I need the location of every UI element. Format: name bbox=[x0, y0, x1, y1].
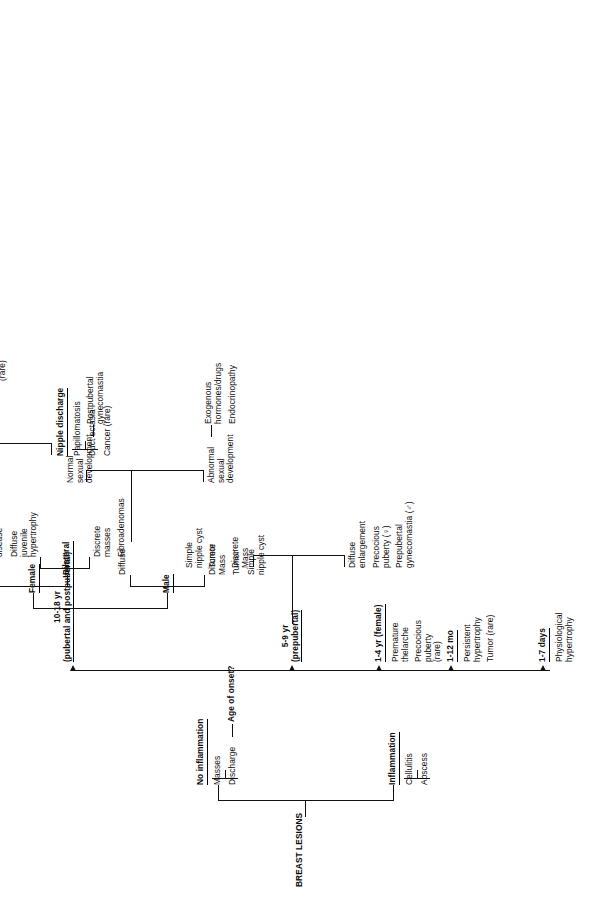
node-inflammation: Inflammation bbox=[388, 732, 400, 785]
leaf-duct-ectasia: Duct ectasia bbox=[88, 409, 98, 456]
node-1-7-days: 1-7 days bbox=[538, 628, 550, 662]
node-male-discrete-mass: Discrete Mass bbox=[208, 544, 227, 575]
arrow-1-12-mo bbox=[448, 665, 454, 671]
leaf-physiological-hypertrophy: Physiological hypertrophy bbox=[555, 612, 574, 662]
leaf-male-simple-nipple-cyst: Simple nipple cyst bbox=[247, 535, 266, 575]
node-1-12-mo: 1-12 mo bbox=[446, 630, 458, 662]
leaf-exogenous-hormones: Exogenous hormones/drugs bbox=[204, 363, 223, 424]
node-bilateral: Bilateral bbox=[62, 541, 74, 575]
leaf-endocrinopathy: Endocrinopathy bbox=[228, 365, 238, 424]
node-male: Male bbox=[162, 574, 174, 593]
arrow-5-9-yr bbox=[289, 665, 295, 671]
edge-5-9-to-diffuse bbox=[344, 555, 345, 567]
edge-bilateral-to-diffuse bbox=[40, 557, 41, 569]
edge-5-9-stem bbox=[292, 555, 293, 624]
leaf-prepubertal-simple-nipple-cyst: Simple nipple cyst bbox=[185, 528, 204, 568]
leaf-papillomatosis: Papillomatosis bbox=[73, 401, 83, 456]
edge-female-split bbox=[0, 586, 68, 587]
edge-10-18-split bbox=[33, 608, 168, 609]
leaf-masses: Masses bbox=[213, 756, 223, 785]
breast-lesions-flowchart: BREAST LESIONS Inflammation Cellulitis A… bbox=[0, 0, 611, 905]
leaf-prepubertal-gynecomastia-male: Prepubertal gynecomastia (♂) bbox=[395, 501, 414, 568]
edge-unilateral-split bbox=[0, 443, 52, 444]
node-prepubertal-diffuse: Diffuse enlargement bbox=[348, 521, 367, 568]
edge-5-9-split bbox=[253, 555, 345, 556]
leaf-persistent-hypertrophy: Persistent hypertrophy bbox=[463, 617, 482, 662]
leaf-fat-necrosis-rare: Fat necrosis (rare) bbox=[0, 335, 7, 381]
edge-bilateral-split bbox=[40, 568, 90, 569]
edge-to-abnormal-dev bbox=[203, 470, 204, 482]
edge-abnormal-items bbox=[211, 425, 212, 437]
edge-male-to-discrete bbox=[204, 575, 205, 587]
edge-discharge-to-age bbox=[232, 724, 233, 737]
node-bilateral-discrete-masses: Discrete masses bbox=[93, 526, 112, 557]
node-female: Female bbox=[28, 564, 40, 593]
diagram-page: BREAST LESIONS Inflammation Cellulitis A… bbox=[0, 0, 611, 905]
node-1-4-yr-female: 1-4 yr (female) bbox=[374, 604, 386, 662]
leaf-discharge: Discharge bbox=[228, 747, 238, 785]
edge-age-trunk bbox=[72, 670, 550, 671]
edge-bilateral-to-discrete bbox=[89, 557, 90, 569]
edge-root-split bbox=[218, 800, 394, 801]
leaf-bilateral-fibroadenomas: Fibroadenomas bbox=[117, 498, 127, 557]
edge-root-stem bbox=[305, 801, 306, 817]
edge-female-to-bilateral bbox=[67, 575, 68, 587]
edge-to-female bbox=[33, 593, 34, 609]
node-no-inflammation: No inflammation bbox=[196, 719, 208, 785]
leaf-tumor-rare-infant: Tumor (rare) bbox=[486, 615, 496, 662]
arrow-10-18-yr bbox=[70, 665, 76, 671]
leaf-premature-thelarche: Premature thelarche bbox=[391, 622, 410, 662]
edge-10-18-stem bbox=[73, 608, 74, 624]
edge-male-split bbox=[130, 586, 205, 587]
leaf-cellulitis: Cellulitis bbox=[405, 753, 415, 785]
page-title: BREAST LESIONS bbox=[295, 813, 305, 887]
edge-to-inflammation bbox=[393, 785, 394, 801]
leaf-male-tumor: Tumor bbox=[232, 551, 242, 575]
leaf-diffuse-juvenile-hypertrophy: Diffuse juvenile hypertrophy bbox=[10, 512, 39, 557]
leaf-nipple-discharge-cancer-rare: Cancer (rare) bbox=[103, 406, 113, 456]
leaf-precocious-puberty-rare: Precocious puberty (rare) bbox=[414, 620, 443, 662]
edge-diffuse-split bbox=[86, 470, 204, 471]
node-abnormal-sexual-development: Abnormal sexual development bbox=[207, 434, 236, 483]
node-nipple-discharge: Nipple discharge bbox=[56, 388, 68, 456]
leaf-precocious-puberty-female: Precocious puberty (♀) bbox=[372, 525, 391, 568]
edge-diffuse-stem bbox=[131, 470, 132, 542]
arrow-1-4-yr bbox=[376, 665, 382, 671]
node-age-of-onset: Age of onset? bbox=[227, 666, 237, 722]
leaf-abscess: Abscess bbox=[420, 753, 430, 785]
arrow-1-7-days bbox=[540, 665, 546, 671]
edge-to-nipple-discharge bbox=[51, 443, 52, 455]
edge-to-no-inflammation bbox=[218, 785, 219, 801]
edge-male-to-diffuse bbox=[130, 575, 131, 587]
leaf-fibrocystic-disease: Fibrocystic disease bbox=[0, 516, 4, 557]
edge-to-male bbox=[167, 593, 168, 609]
